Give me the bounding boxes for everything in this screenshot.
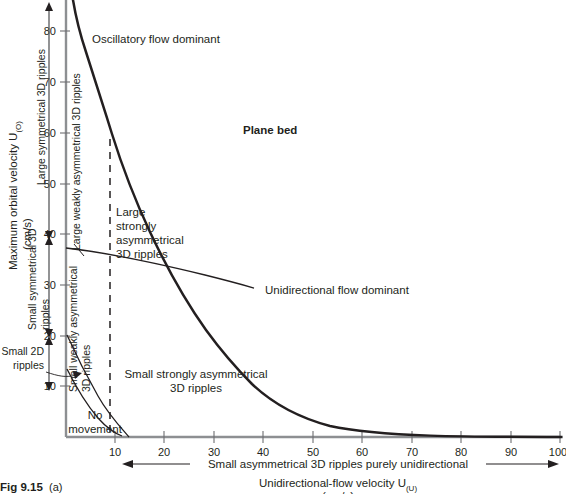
y-tick-label: 80 bbox=[44, 25, 56, 37]
label-large-weakly-asymmetrical: Large weakly asymmetrical 3D ripples bbox=[70, 73, 82, 250]
label-line: 3D ripples bbox=[116, 248, 168, 260]
y-axis-title: Maximum orbital velocity U(O) (cm/s) bbox=[7, 121, 33, 270]
label-line: No bbox=[88, 409, 103, 421]
bracket-label-line: ripples bbox=[39, 299, 51, 330]
y-axis-title-sub: (O) bbox=[14, 121, 23, 133]
x-axis-title: Unidirectional-flow velocity U(U) (cm/s) bbox=[259, 477, 417, 494]
label-unidirectional-flow-dominant: Unidirectional flow dominant bbox=[265, 284, 410, 296]
y-tick-label: 30 bbox=[44, 279, 56, 291]
bracket-label-line: ripples bbox=[13, 359, 44, 371]
x-tick-label: 100 bbox=[549, 446, 566, 458]
bracket-label: Large symmetrical 3D ripples bbox=[35, 49, 47, 185]
x-tick-label: 20 bbox=[158, 446, 170, 458]
label-line: 3D ripples bbox=[80, 345, 92, 392]
label-line: Large bbox=[116, 206, 145, 218]
bottom-range-label: Small asymmetrical 3D ripples purely uni… bbox=[208, 458, 468, 470]
x-axis-title-text: Unidirectional-flow velocity U bbox=[259, 477, 406, 489]
label-oscillatory-flow-dominant: Oscillatory flow dominant bbox=[92, 33, 221, 45]
label-line: asymmetrical bbox=[116, 234, 184, 246]
label-line: movement bbox=[68, 423, 122, 435]
caption-part: (a) bbox=[49, 481, 62, 493]
label-no-movement: No movement bbox=[68, 409, 122, 435]
y-axis-title-text: Maximum orbital velocity U bbox=[7, 133, 19, 270]
x-axis-title-sub: (U) bbox=[406, 484, 417, 493]
bottom-range-arrow: Small asymmetrical 3D ripples purely uni… bbox=[122, 456, 559, 472]
y-axis-title-units: (cm/s) bbox=[21, 218, 33, 250]
x-axis-title-units: (cm/s) bbox=[322, 490, 354, 494]
bracket-label-line: Small 2D bbox=[1, 345, 44, 357]
label-plane-bed: Plane bed bbox=[243, 124, 297, 136]
ripple-stability-diagram: 80 70 60 50 40 30 20 10 10 20 30 40 50 6… bbox=[0, 0, 566, 494]
label-line: strongly bbox=[116, 220, 157, 232]
figure-caption: Fig 9.15 (a) bbox=[0, 481, 62, 493]
figure-container: 80 70 60 50 40 30 20 10 10 20 30 40 50 6… bbox=[0, 0, 566, 494]
x-tick-label: 90 bbox=[505, 446, 517, 458]
label-small-strongly-asymmetrical: Small strongly asymmetrical 3D ripples bbox=[124, 368, 267, 394]
x-tick-label: 10 bbox=[109, 446, 121, 458]
bracket-large-symmetrical: Large symmetrical 3D ripples bbox=[35, 2, 53, 240]
label-line: Small strongly asymmetrical bbox=[124, 368, 267, 380]
caption-label: Fig 9.15 bbox=[0, 481, 43, 493]
label-line: 3D ripples bbox=[170, 382, 222, 394]
